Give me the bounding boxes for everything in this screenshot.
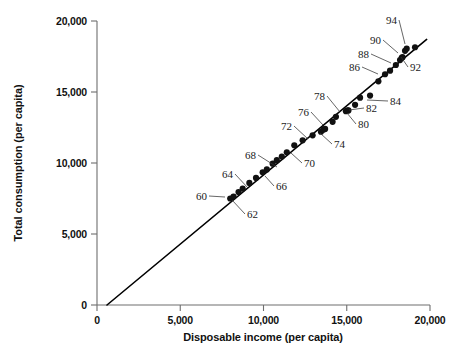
- leader-line: [311, 112, 323, 125]
- data-point: [284, 149, 290, 155]
- data-point: [387, 68, 393, 74]
- annotation-labels: 606264666870727476788082848688909294: [196, 14, 421, 220]
- year-label-68: 68: [245, 149, 257, 161]
- year-label-70: 70: [304, 157, 316, 169]
- year-label-86: 86: [349, 61, 361, 73]
- data-point: [274, 157, 280, 163]
- data-point: [357, 95, 363, 101]
- x-tick-label: 5,000: [168, 314, 194, 326]
- year-label-60: 60: [196, 190, 208, 202]
- data-point: [246, 180, 252, 186]
- leader-line: [371, 54, 391, 63]
- year-label-76: 76: [298, 106, 310, 118]
- x-tick-label: 20,000: [415, 314, 446, 326]
- y-tick-label: 15,000: [56, 86, 87, 98]
- leader-line: [265, 176, 274, 186]
- data-point: [352, 102, 358, 108]
- year-label-84: 84: [390, 95, 402, 107]
- year-label-90: 90: [370, 34, 382, 46]
- data-point: [264, 166, 270, 172]
- leader-line: [327, 96, 340, 112]
- x-tick-label: 0: [94, 314, 100, 326]
- data-point: [230, 193, 236, 199]
- data-point: [253, 175, 259, 181]
- leader-line: [347, 113, 356, 124]
- leader-line: [399, 20, 405, 44]
- year-label-74: 74: [334, 138, 346, 150]
- year-label-64: 64: [222, 168, 234, 180]
- leader-line: [349, 108, 364, 110]
- leader-line: [232, 200, 245, 214]
- year-label-88: 88: [358, 48, 370, 60]
- y-axis-ticks: [91, 21, 97, 305]
- leader-line: [291, 153, 302, 163]
- chart-page: 05,00010,00015,00020,000 05,00010,00015,…: [0, 0, 461, 359]
- data-point: [367, 92, 373, 98]
- leader-line: [367, 100, 388, 101]
- x-axis-title: Disposable income (per capita): [183, 331, 343, 343]
- x-axis-ticks: [97, 305, 430, 311]
- y-tick-label: 5,000: [62, 228, 88, 240]
- y-tick-label: 0: [81, 299, 87, 311]
- y-axis-tick-labels: 05,00010,00015,00020,000: [56, 15, 87, 311]
- data-point: [345, 107, 351, 113]
- year-label-82: 82: [366, 102, 377, 114]
- year-label-62: 62: [247, 208, 258, 220]
- data-point: [291, 142, 297, 148]
- data-point: [404, 46, 410, 52]
- y-axis-title: Total consumption (per capita): [12, 84, 24, 241]
- data-point: [375, 78, 381, 84]
- data-point: [310, 132, 316, 138]
- y-tick-label: 10,000: [56, 157, 87, 169]
- x-tick-label: 15,000: [331, 314, 362, 326]
- leader-line: [209, 196, 225, 197]
- year-label-72: 72: [281, 120, 292, 132]
- leader-line: [320, 133, 332, 144]
- data-point: [279, 154, 285, 160]
- data-points: [227, 44, 418, 201]
- data-point: [300, 137, 306, 143]
- data-point: [333, 114, 339, 120]
- data-point: [412, 44, 418, 50]
- plot-axes: [97, 21, 430, 305]
- y-tick-label: 20,000: [56, 15, 87, 27]
- data-point: [382, 71, 388, 77]
- x-tick-label: 10,000: [248, 314, 279, 326]
- leader-line: [383, 40, 398, 53]
- x-axis-tick-labels: 05,00010,00015,00020,000: [94, 314, 446, 326]
- year-label-78: 78: [314, 90, 326, 102]
- leader-line: [294, 126, 308, 139]
- year-label-92: 92: [410, 61, 421, 73]
- scatter-chart: 05,00010,00015,00020,000 05,00010,00015,…: [0, 0, 461, 359]
- data-point: [393, 62, 399, 68]
- year-label-94: 94: [386, 14, 398, 26]
- data-point: [240, 185, 246, 191]
- year-label-80: 80: [358, 118, 370, 130]
- leader-line: [362, 67, 378, 74]
- year-label-66: 66: [276, 180, 288, 192]
- data-point: [322, 126, 328, 132]
